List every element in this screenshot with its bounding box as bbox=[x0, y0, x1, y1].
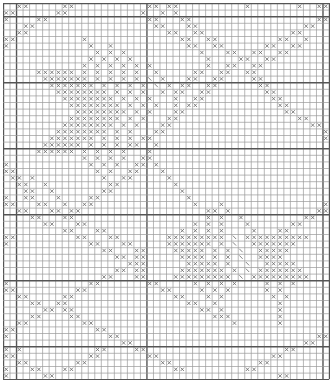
cross-stitch-icon bbox=[265, 90, 268, 93]
cross-stitch-icon bbox=[96, 328, 99, 331]
cross-stitch-icon bbox=[200, 255, 203, 258]
cross-stitch-icon bbox=[220, 77, 223, 80]
cross-stitch-icon bbox=[44, 143, 47, 146]
cross-stitch-icon bbox=[89, 137, 92, 140]
cross-stitch-icon bbox=[128, 170, 131, 173]
cross-stitch-icon bbox=[102, 123, 105, 126]
cross-stitch-icon bbox=[115, 104, 118, 107]
cross-stitch-icon bbox=[174, 236, 177, 239]
cross-stitch-icon bbox=[115, 143, 118, 146]
cross-stitch-icon bbox=[63, 308, 66, 311]
cross-stitch-icon bbox=[265, 275, 268, 278]
cross-stitch-icon bbox=[83, 156, 86, 159]
cross-stitch-icon bbox=[18, 209, 21, 212]
cross-stitch-icon bbox=[37, 315, 40, 318]
cross-stitch-icon bbox=[5, 163, 8, 166]
cross-stitch-icon bbox=[181, 249, 184, 252]
cross-stitch-icon bbox=[128, 104, 131, 107]
cross-stitch-icon bbox=[187, 104, 190, 107]
cross-stitch-icon bbox=[96, 123, 99, 126]
cross-stitch-icon bbox=[194, 236, 197, 239]
cross-stitch-icon bbox=[122, 341, 125, 344]
cross-stitch-icon bbox=[109, 97, 112, 100]
cross-stitch-icon bbox=[174, 275, 177, 278]
cross-stitch-icon bbox=[207, 209, 210, 212]
cross-stitch-icon bbox=[128, 242, 131, 245]
cross-stitch-icon bbox=[246, 222, 249, 225]
cross-stitch-icon bbox=[187, 77, 190, 80]
cross-stitch-icon bbox=[226, 275, 229, 278]
cross-stitch-icon bbox=[226, 64, 229, 67]
cross-stitch-icon bbox=[148, 150, 151, 153]
cross-stitch-icon bbox=[102, 229, 105, 232]
cross-stitch-icon bbox=[298, 269, 301, 272]
cross-stitch-icon bbox=[102, 84, 105, 87]
cross-stitch-icon bbox=[83, 203, 86, 206]
cross-stitch-icon bbox=[96, 110, 99, 113]
cross-stitch-icon bbox=[109, 275, 112, 278]
cross-stitch-icon bbox=[115, 130, 118, 133]
cross-stitch-icon bbox=[83, 321, 86, 324]
cross-stitch-icon bbox=[50, 209, 53, 212]
cross-stitch-icon bbox=[70, 97, 73, 100]
cross-stitch-icon bbox=[96, 150, 99, 153]
cross-stitch-icon bbox=[161, 24, 164, 27]
cross-stitch-icon bbox=[213, 262, 216, 265]
cross-stitch-icon bbox=[181, 84, 184, 87]
cross-stitch-icon bbox=[102, 249, 105, 252]
cross-stitch-icon bbox=[272, 275, 275, 278]
cross-stitch-icon bbox=[5, 203, 8, 206]
cross-stitch-icon bbox=[128, 341, 131, 344]
cross-stitch-icon bbox=[135, 262, 138, 265]
cross-stitch-icon bbox=[194, 44, 197, 47]
cross-stitch-icon bbox=[252, 275, 255, 278]
cross-stitch-icon bbox=[11, 236, 14, 239]
cross-stitch-icon bbox=[207, 64, 210, 67]
cross-stitch-icon bbox=[194, 104, 197, 107]
cross-stitch-icon bbox=[70, 137, 73, 140]
cross-stitch-icon bbox=[109, 123, 112, 126]
cross-stitch-icon bbox=[265, 242, 268, 245]
cross-stitch-icon bbox=[259, 236, 262, 239]
cross-stitch-icon bbox=[311, 216, 314, 219]
cross-stitch-icon bbox=[135, 77, 138, 80]
cross-stitch-icon bbox=[252, 71, 255, 74]
cross-stitch-icon bbox=[233, 321, 236, 324]
cross-stitch-icon bbox=[142, 249, 145, 252]
cross-stitch-icon bbox=[278, 374, 281, 377]
slash-stitch-icon bbox=[148, 77, 151, 80]
cross-stitch-icon bbox=[161, 90, 164, 93]
cross-stitch-icon bbox=[187, 269, 190, 272]
cross-stitch-icon bbox=[96, 354, 99, 357]
cross-stitch-icon bbox=[37, 216, 40, 219]
cross-stitch-icon bbox=[220, 229, 223, 232]
cross-stitch-icon bbox=[63, 203, 66, 206]
cross-stitch-icon bbox=[181, 275, 184, 278]
cross-stitch-icon bbox=[70, 123, 73, 126]
cross-stitch-icon bbox=[109, 51, 112, 54]
cross-stitch-icon bbox=[168, 117, 171, 120]
cross-stitch-icon bbox=[135, 110, 138, 113]
cross-stitch-icon bbox=[187, 38, 190, 41]
cross-stitch-icon bbox=[89, 143, 92, 146]
cross-stitch-icon bbox=[89, 104, 92, 107]
cross-stitch-icon bbox=[63, 90, 66, 93]
cross-stitch-icon bbox=[161, 170, 164, 173]
cross-stitch-icon bbox=[233, 64, 236, 67]
cross-stitch-icon bbox=[122, 156, 125, 159]
cross-stitch-icon bbox=[102, 130, 105, 133]
cross-stitch-icon bbox=[37, 302, 40, 305]
cross-stitch-icon bbox=[24, 196, 27, 199]
cross-stitch-icon bbox=[70, 117, 73, 120]
cross-stitch-icon bbox=[128, 57, 131, 60]
cross-stitch-icon bbox=[135, 269, 138, 272]
cross-stitch-icon bbox=[142, 137, 145, 140]
cross-stitch-icon bbox=[213, 38, 216, 41]
cross-stitch-icon bbox=[213, 77, 216, 80]
cross-stitch-icon bbox=[5, 18, 8, 21]
cross-stitch-icon bbox=[265, 269, 268, 272]
cross-stitch-icon bbox=[259, 77, 262, 80]
cross-stitch-icon bbox=[155, 24, 158, 27]
cross-stitch-icon bbox=[115, 255, 118, 258]
cross-stitch-icon bbox=[89, 354, 92, 357]
